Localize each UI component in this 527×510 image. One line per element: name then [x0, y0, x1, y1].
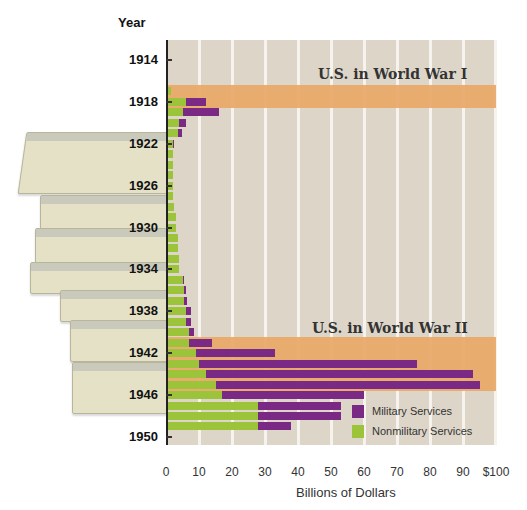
legend-military-swatch [352, 405, 364, 418]
x-tick-label: $100 [483, 465, 510, 479]
legend-nonmilitary-swatch [352, 425, 364, 438]
military-bar [186, 98, 206, 106]
legend-nonmilitary-label: Nonmilitary Services [372, 425, 472, 437]
x-tick-label: 40 [291, 465, 304, 479]
military-bar [196, 349, 275, 357]
military-bar [173, 140, 175, 148]
military-bar [186, 318, 191, 326]
y-tick-mark [166, 394, 172, 396]
x-tick-label: 70 [390, 465, 403, 479]
y-tick-mark [166, 59, 172, 61]
x-tick-label: 20 [225, 465, 238, 479]
nonmilitary-bar [166, 297, 184, 305]
military-bar [258, 422, 291, 430]
y-tick-mark [166, 227, 172, 229]
x-tick-label: 80 [423, 465, 436, 479]
nonmilitary-bar [166, 381, 216, 389]
y-axis-title: Year [118, 15, 168, 30]
military-bar [258, 412, 341, 420]
military-bar [222, 391, 364, 399]
military-bar [216, 381, 480, 389]
nonmilitary-bar [166, 412, 258, 420]
military-bar [206, 370, 473, 378]
x-tick-label: 60 [357, 465, 370, 479]
y-tick-mark [166, 185, 172, 187]
x-tick-label: 50 [324, 465, 337, 479]
y-tick-mark [166, 101, 172, 103]
nonmilitary-bar [166, 328, 189, 336]
ww2-annotation: U.S. in World War II [312, 320, 468, 336]
nonmilitary-bar [166, 286, 184, 294]
y-tick-label: 1938 [108, 303, 158, 318]
x-axis-title: Billions of Dollars [296, 485, 396, 500]
y-tick-label: 1918 [108, 94, 158, 109]
military-bar [183, 108, 219, 116]
ww1-band [166, 85, 496, 108]
military-bar [189, 328, 194, 336]
nonmilitary-bar [166, 391, 222, 399]
military-bar [258, 402, 341, 410]
y-tick-label: 1934 [108, 261, 158, 276]
military-bar [186, 307, 191, 315]
y-tick-mark [166, 352, 172, 354]
x-tick-label: 30 [258, 465, 271, 479]
nonmilitary-bar [166, 402, 258, 410]
military-bar [179, 119, 186, 127]
military-bar [178, 129, 183, 137]
military-bar [189, 339, 212, 347]
legend-military-label: Military Services [372, 405, 452, 417]
x-tick-label: 0 [163, 465, 170, 479]
y-tick-label: 1922 [108, 136, 158, 151]
nonmilitary-bar [166, 422, 258, 430]
nonmilitary-bar [166, 370, 206, 378]
y-tick-label: 1930 [108, 220, 158, 235]
y-tick-label: 1914 [108, 52, 158, 67]
nonmilitary-bar [166, 276, 183, 284]
y-tick-mark [166, 436, 172, 438]
y-tick-mark [166, 310, 172, 312]
x-tick-label: 10 [192, 465, 205, 479]
nonmilitary-bar [166, 318, 186, 326]
y-tick-label: 1926 [108, 178, 158, 193]
y-tick-label: 1942 [108, 345, 158, 360]
nonmilitary-bar [166, 360, 199, 368]
y-tick-label: 1946 [108, 387, 158, 402]
y-tick-label: 1950 [108, 429, 158, 444]
military-bar [184, 286, 186, 294]
military-bar [184, 297, 187, 305]
x-tick-label: 90 [456, 465, 469, 479]
y-tick-mark [166, 143, 172, 145]
nonmilitary-bar [166, 339, 189, 347]
y-tick-mark [166, 268, 172, 270]
ww1-annotation: U.S. in World War I [318, 66, 467, 82]
plot-area [166, 40, 496, 445]
military-bar [199, 360, 417, 368]
military-bar [183, 276, 184, 284]
nonmilitary-bar [166, 108, 183, 116]
